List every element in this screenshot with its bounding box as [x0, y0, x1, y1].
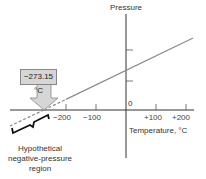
x-axis-label: Temperature, °C	[129, 126, 187, 135]
region-caption-line-2: negative-pressure	[4, 154, 76, 164]
x-tick-label--100: −100	[83, 113, 101, 122]
y-axis-label: Pressure	[110, 3, 142, 12]
absolute-zero-callout: −273.15 °C	[20, 69, 57, 85]
region-caption-line-1: Hypothetical	[4, 144, 76, 154]
region-caption: Hypothetical negative-pressure region	[4, 144, 76, 174]
pressure-line	[66, 38, 193, 99]
x-tick-label-200: +200	[172, 113, 190, 122]
x-tick-label--200: −200	[53, 113, 71, 122]
region-caption-line-3: region	[4, 164, 76, 174]
origin-label: 0	[128, 99, 132, 108]
negative-pressure-dashed-line	[10, 110, 44, 126]
x-tick-label-100: +100	[144, 113, 162, 122]
region-bracket	[12, 115, 49, 133]
